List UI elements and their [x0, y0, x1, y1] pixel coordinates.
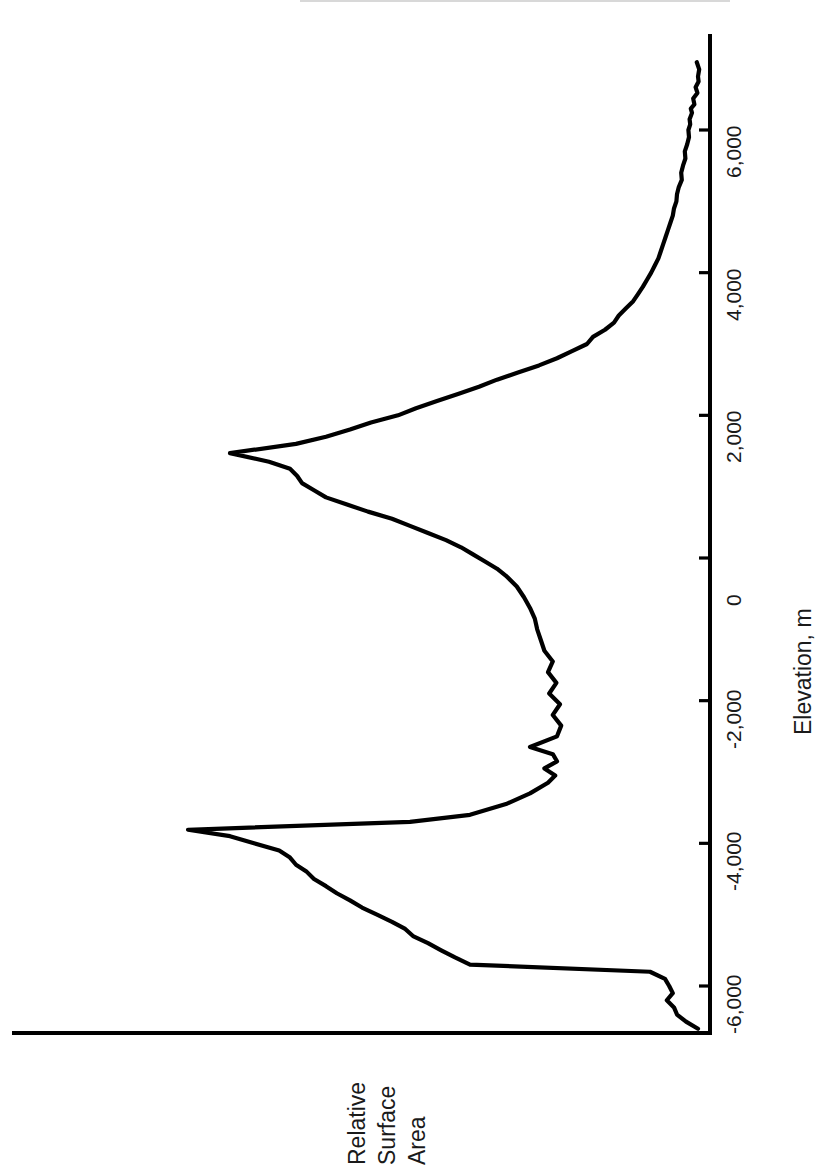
- hypsometric-curve-line: [188, 62, 699, 1029]
- relative-surface-area-title-line-2: Surface: [374, 1086, 401, 1165]
- relative-surface-area-title-line-3: Area: [404, 1116, 431, 1165]
- axis-lines: [12, 34, 712, 1033]
- relative-surface-area-title-line-1: Relative: [344, 1082, 371, 1165]
- elevation-tick-label-0: 0: [722, 594, 746, 606]
- elevation-tick-label-2000: 2,000: [722, 411, 746, 464]
- elevation-tick-label--4000: -4,000: [722, 832, 746, 892]
- elevation-axis-title: Elevation, m: [790, 608, 817, 735]
- elevation-tick-label-4000: 4,000: [722, 268, 746, 321]
- elevation-tick-label--2000: -2,000: [722, 689, 746, 749]
- elevation-tick-label-6000: 6,000: [722, 125, 746, 178]
- elevation-tick-label--6000: -6,000: [722, 974, 746, 1034]
- axis-tick-marks: [699, 130, 709, 986]
